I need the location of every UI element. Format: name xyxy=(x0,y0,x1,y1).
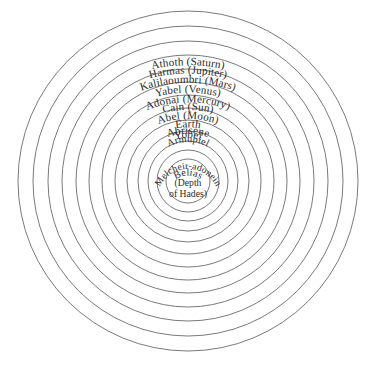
cosmos-svg: Athoth (Saturn) Harmas (Jupiter) Kalilao… xyxy=(0,0,382,368)
core-depth-line2: of Hades) xyxy=(169,188,207,200)
ring-labels-group: Athoth (Saturn) Harmas (Jupiter) Kalilao… xyxy=(138,55,238,188)
concentric-spheres-diagram: Athoth (Saturn) Harmas (Jupiter) Kalilao… xyxy=(0,0,382,368)
core-annotation-group: (Depth of Hades) xyxy=(169,177,207,200)
